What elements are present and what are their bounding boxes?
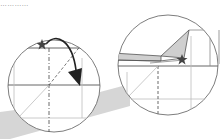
- origami-diagram: [0, 0, 224, 139]
